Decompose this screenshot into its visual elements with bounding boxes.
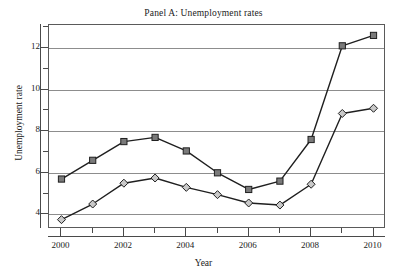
x-tick-label-2002: 2002 bbox=[103, 240, 143, 250]
y-tick-8 bbox=[40, 130, 48, 131]
chart-figure: Panel A: Unemployment rates 4681012 2000… bbox=[0, 0, 407, 280]
series-squares-marker-2009 bbox=[339, 43, 345, 49]
y-tick-label-4: 4 bbox=[12, 207, 40, 217]
series-squares-marker-2006 bbox=[246, 186, 252, 192]
x-tick-2010 bbox=[373, 228, 374, 236]
x-tick-2001 bbox=[92, 228, 93, 233]
series-diamonds-marker-2008 bbox=[307, 180, 315, 188]
series-squares-marker-2000 bbox=[58, 176, 64, 182]
x-tick-2006 bbox=[248, 228, 249, 236]
series-squares-marker-2007 bbox=[277, 178, 283, 184]
y-tick-5 bbox=[43, 193, 48, 194]
chart-title: Panel A: Unemployment rates bbox=[0, 8, 407, 18]
y-tick-6 bbox=[40, 172, 48, 173]
series-diamonds-marker-2007 bbox=[276, 201, 284, 209]
x-tick-label-2008: 2008 bbox=[290, 240, 330, 250]
y-tick-7 bbox=[43, 151, 48, 152]
series-squares-marker-2003 bbox=[152, 134, 158, 140]
series-diamonds-marker-2010 bbox=[370, 104, 378, 112]
y-tick-9 bbox=[43, 109, 48, 110]
series-squares-marker-2010 bbox=[370, 32, 376, 38]
y-tick-13 bbox=[43, 26, 48, 27]
series-squares-marker-2004 bbox=[183, 148, 189, 154]
series-diamonds-marker-2001 bbox=[89, 200, 97, 208]
y-tick-4 bbox=[40, 213, 48, 214]
x-axis-spine bbox=[48, 236, 385, 237]
x-tick-2003 bbox=[154, 228, 155, 233]
x-tick-label-2010: 2010 bbox=[353, 240, 393, 250]
series-squares bbox=[58, 32, 376, 192]
series-squares-marker-2008 bbox=[308, 136, 314, 142]
series-diamonds bbox=[57, 104, 377, 223]
x-tick-2008 bbox=[310, 228, 311, 236]
series-squares-marker-2002 bbox=[121, 138, 127, 144]
series-diamonds-marker-2002 bbox=[120, 179, 128, 187]
y-tick-10 bbox=[40, 89, 48, 90]
series-diamonds-marker-2000 bbox=[57, 216, 65, 224]
x-tick-2004 bbox=[185, 228, 186, 236]
plot-area bbox=[48, 24, 385, 228]
x-tick-2007 bbox=[279, 228, 280, 233]
x-tick-label-2006: 2006 bbox=[228, 240, 268, 250]
y-axis-spine bbox=[40, 24, 41, 228]
y-axis-title: Unemployment rate bbox=[14, 48, 24, 198]
x-tick-2000 bbox=[60, 228, 61, 236]
x-tick-label-2004: 2004 bbox=[165, 240, 205, 250]
series-diamonds-marker-2004 bbox=[182, 183, 190, 191]
x-tick-2002 bbox=[123, 228, 124, 236]
series-squares-marker-2001 bbox=[90, 157, 96, 163]
series-diamonds-marker-2009 bbox=[338, 109, 346, 117]
series-diamonds-line bbox=[61, 108, 373, 219]
data-series-layer bbox=[49, 25, 386, 229]
y-tick-12 bbox=[40, 47, 48, 48]
x-tick-2009 bbox=[341, 228, 342, 233]
x-tick-label-2000: 2000 bbox=[40, 240, 80, 250]
x-axis-title: Year bbox=[0, 258, 407, 268]
series-squares-line bbox=[61, 35, 373, 189]
y-tick-11 bbox=[43, 68, 48, 69]
x-tick-2005 bbox=[217, 228, 218, 233]
series-diamonds-marker-2003 bbox=[151, 174, 159, 182]
series-squares-marker-2005 bbox=[214, 170, 220, 176]
series-diamonds-marker-2005 bbox=[214, 191, 222, 199]
series-diamonds-marker-2006 bbox=[245, 199, 253, 207]
